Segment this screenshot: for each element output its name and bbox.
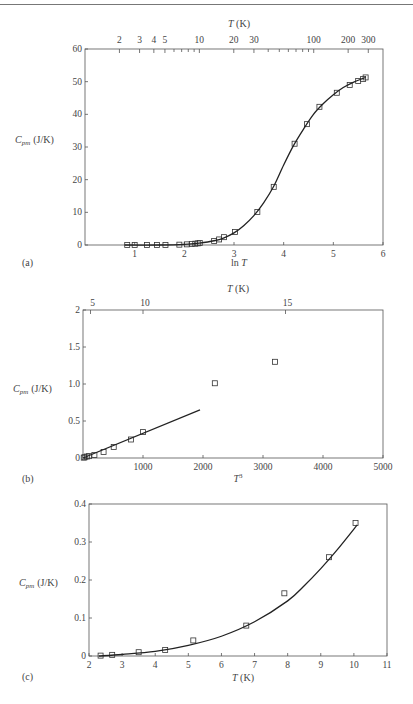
data-point-square bbox=[212, 381, 217, 386]
x-axis-label: T (K) bbox=[232, 672, 254, 684]
data-point-square bbox=[353, 521, 358, 526]
x-tick-label: 6 bbox=[381, 249, 386, 259]
x-axis-label: T3 bbox=[233, 472, 243, 484]
y-tick-label: 0.3 bbox=[74, 537, 86, 547]
plot-frame bbox=[89, 504, 387, 656]
x-tick-label: 6 bbox=[219, 660, 224, 670]
top-tick-label: 3 bbox=[137, 35, 142, 45]
y-tick-label: 1.0 bbox=[68, 379, 80, 389]
chart-panel-b: 1000200030004000500000.51.01.5251015T (K… bbox=[13, 283, 393, 485]
x-tick-label: 2 bbox=[87, 660, 92, 670]
plot-frame bbox=[85, 49, 383, 245]
top-axis-label: T (K) bbox=[228, 18, 250, 30]
figure: 12345601020304050602345102030100200300T … bbox=[0, 0, 413, 704]
top-tick-label: 5 bbox=[163, 35, 168, 45]
y-tick-label: 60 bbox=[73, 44, 83, 54]
x-tick-label: 10 bbox=[349, 660, 359, 670]
top-tick-label: 10 bbox=[195, 35, 205, 45]
y-tick-label: 30 bbox=[73, 142, 83, 152]
y-tick-label: 0.1 bbox=[74, 613, 86, 623]
plot-frame bbox=[83, 310, 383, 458]
chart-panel-a: 12345601020304050602345102030100200300T … bbox=[15, 18, 386, 269]
top-tick-label: 30 bbox=[249, 35, 259, 45]
x-tick-label: 1000 bbox=[134, 462, 153, 472]
data-point-square bbox=[282, 591, 287, 596]
y-tick-label: 0.5 bbox=[68, 416, 80, 426]
y-tick-label: 50 bbox=[73, 77, 83, 87]
chart-panel-c: 23456789101100.10.20.30.4T (K)Cpm(J/K)(c… bbox=[19, 499, 392, 684]
x-axis-label: ln T bbox=[231, 257, 248, 268]
top-tick-label: 2 bbox=[117, 35, 122, 45]
x-tick-label: 7 bbox=[252, 660, 257, 670]
y-tick-label: 10 bbox=[73, 207, 83, 217]
x-tick-label: 5000 bbox=[374, 462, 393, 472]
panel-label: (c) bbox=[22, 671, 33, 683]
y-tick-label: 0.2 bbox=[74, 575, 86, 585]
y-tick-label: 1.5 bbox=[68, 342, 80, 352]
x-tick-label: 3000 bbox=[254, 462, 273, 472]
y-tick-label: 0 bbox=[81, 651, 86, 661]
y-axis-label: Cpm(J/K) bbox=[19, 577, 58, 590]
x-tick-label: 5 bbox=[331, 249, 336, 259]
y-axis-label: Cpm(J/K) bbox=[15, 134, 54, 147]
x-tick-label: 4 bbox=[281, 249, 286, 259]
x-tick-label: 3 bbox=[120, 660, 125, 670]
panel-label: (b) bbox=[22, 473, 34, 485]
top-tick-label: 5 bbox=[90, 298, 95, 308]
y-tick-label: 0 bbox=[75, 453, 80, 463]
top-tick-label: 20 bbox=[229, 35, 239, 45]
y-tick-label: 20 bbox=[73, 175, 83, 185]
fit-curve bbox=[125, 77, 366, 245]
y-tick-label: 0.4 bbox=[74, 499, 86, 509]
top-tick-label: 100 bbox=[307, 35, 322, 45]
x-tick-label: 4000 bbox=[314, 462, 333, 472]
top-axis-label: T (K) bbox=[227, 283, 249, 295]
fit-curve bbox=[99, 525, 357, 656]
data-point-square bbox=[191, 638, 196, 643]
top-tick-label: 15 bbox=[283, 298, 293, 308]
x-tick-label: 1 bbox=[132, 249, 137, 259]
x-tick-label: 5 bbox=[186, 660, 191, 670]
fit-curve bbox=[83, 410, 200, 458]
top-tick-label: 10 bbox=[140, 298, 150, 308]
x-tick-label: 4 bbox=[153, 660, 158, 670]
top-tick-label: 300 bbox=[361, 35, 376, 45]
y-axis-label: Cpm(J/K) bbox=[13, 383, 52, 396]
x-tick-label: 9 bbox=[318, 660, 323, 670]
x-tick-label: 11 bbox=[382, 660, 391, 670]
x-tick-label: 8 bbox=[285, 660, 290, 670]
x-tick-label: 2000 bbox=[194, 462, 213, 472]
top-tick-label: 4 bbox=[151, 35, 156, 45]
y-tick-label: 0 bbox=[77, 240, 82, 250]
y-tick-label: 2 bbox=[75, 305, 80, 315]
data-point-square bbox=[273, 359, 278, 364]
x-tick-label: 2 bbox=[182, 249, 187, 259]
top-tick-label: 200 bbox=[341, 35, 356, 45]
panel-label: (a) bbox=[22, 257, 33, 269]
y-tick-label: 40 bbox=[73, 109, 83, 119]
